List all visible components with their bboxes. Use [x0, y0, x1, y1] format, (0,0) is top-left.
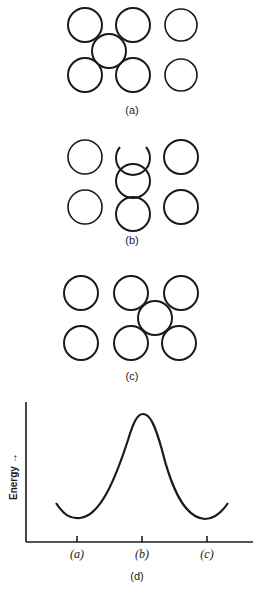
panel-label-d: (d): [117, 570, 157, 582]
panel-a-atoms: [68, 8, 197, 92]
panel-label-c: (c): [112, 370, 152, 382]
panel-label-a: (a): [112, 104, 152, 116]
tick-label-a: (a): [62, 547, 92, 562]
tick-label-b: (b): [127, 547, 157, 562]
panel-b-atoms: [68, 140, 198, 231]
diagram-canvas: [0, 0, 262, 589]
panel-label-b: (b): [112, 234, 152, 246]
panel-c-atoms: [64, 276, 198, 360]
energy-curve: [56, 414, 228, 519]
energy-axis-label: Energy →: [8, 453, 19, 500]
energy-axes: [26, 402, 253, 542]
tick-label-c: (c): [192, 547, 222, 562]
